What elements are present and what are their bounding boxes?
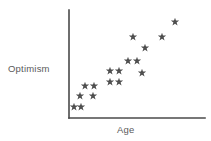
data-point-star <box>129 33 137 41</box>
data-point-star <box>141 44 149 52</box>
data-point-star <box>81 82 89 90</box>
data-point-star <box>115 67 123 75</box>
data-point-star <box>133 57 141 65</box>
data-point-star <box>76 92 84 100</box>
data-point-star <box>106 67 114 75</box>
data-point-star <box>138 69 146 77</box>
data-point-star <box>90 82 98 90</box>
data-points-group <box>70 18 179 111</box>
data-point-star <box>115 78 123 86</box>
data-point-star <box>124 57 132 65</box>
data-point-star <box>171 18 179 26</box>
x-axis-label: Age <box>117 125 135 135</box>
y-axis-label: Optimism <box>8 64 50 74</box>
data-point-star <box>158 33 166 41</box>
data-point-star <box>106 78 114 86</box>
data-point-star <box>70 103 78 111</box>
scatter-plot-figure: Optimism Age <box>0 0 211 141</box>
data-point-star <box>89 92 97 100</box>
data-point-star <box>77 103 85 111</box>
